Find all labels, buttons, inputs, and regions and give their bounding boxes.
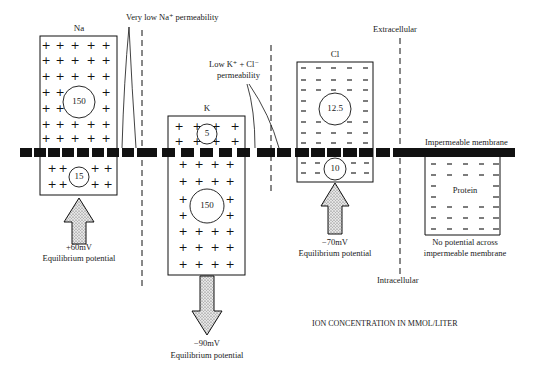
svg-text:+: + — [86, 54, 95, 67]
na-permeability-pointers — [122, 27, 136, 148]
svg-text:+: + — [86, 70, 95, 83]
na-compartment: +++++ +++++ +++++ +++ +++ +++++ +++++ ++… — [40, 36, 117, 244]
svg-text:+: + — [103, 178, 112, 191]
k-cl-permeability-label-line2: permeability — [217, 70, 260, 81]
svg-text:+: + — [41, 118, 50, 131]
svg-text:+: + — [86, 118, 95, 131]
svg-text:+: + — [101, 86, 110, 99]
svg-text:+: + — [178, 193, 187, 206]
na-potential-label: Equilibrium potential — [25, 253, 133, 264]
na-permeability-label: Very low Na⁺ permeability — [126, 12, 219, 23]
k-cl-permeability-label-line1: Low K⁺ + Cl⁻ — [209, 59, 259, 70]
svg-text:+: + — [70, 54, 79, 67]
svg-text:+: + — [70, 132, 79, 145]
svg-text:+: + — [210, 175, 219, 188]
svg-text:+: + — [86, 132, 95, 145]
svg-text:+: + — [225, 209, 234, 222]
svg-text:+: + — [178, 175, 187, 188]
svg-text:+: + — [58, 178, 67, 191]
impermeable-membrane — [393, 148, 515, 157]
na-ion-label: Na — [68, 23, 90, 34]
cl-extracellular-conc: 12.5 — [319, 103, 351, 114]
svg-text:+: + — [210, 225, 219, 238]
svg-text:+: + — [101, 132, 110, 145]
svg-text:+: + — [230, 120, 239, 133]
svg-text:+: + — [55, 70, 64, 83]
svg-text:+: + — [41, 132, 50, 145]
svg-text:+: + — [225, 258, 234, 271]
cl-intracellular-conc: 10 — [325, 163, 345, 174]
k-cl-permeability-pointers — [247, 84, 279, 148]
na-extracellular-conc: 150 — [63, 96, 95, 107]
cl-potential-label: Equilibrium potential — [281, 248, 389, 259]
svg-text:+: + — [210, 258, 219, 271]
k-potential-value: −90mV — [168, 338, 246, 349]
svg-text:+: + — [41, 39, 50, 52]
svg-text:+: + — [210, 241, 219, 254]
svg-text:+: + — [225, 193, 234, 206]
svg-text:+: + — [225, 225, 234, 238]
svg-text:+: + — [178, 258, 187, 271]
k-ion-label: K — [197, 103, 217, 114]
na-potential-value: +60mV — [40, 242, 118, 253]
svg-text:+: + — [58, 162, 67, 175]
extracellular-label: Extracellular — [373, 24, 417, 35]
svg-text:+: + — [178, 225, 187, 238]
svg-text:+: + — [178, 158, 187, 171]
svg-text:+: + — [101, 118, 110, 131]
svg-text:+: + — [55, 118, 64, 131]
cl-ion-label: Cl — [325, 49, 345, 60]
svg-text:+: + — [70, 118, 79, 131]
protein-note-line1: No potential across — [410, 237, 520, 248]
svg-text:+: + — [225, 241, 234, 254]
na-arrow-up-icon — [64, 198, 94, 244]
svg-text:+: + — [178, 209, 187, 222]
na-intracellular-conc: 15 — [69, 171, 89, 182]
svg-text:+: + — [101, 102, 110, 115]
svg-text:+: + — [90, 162, 99, 175]
svg-text:+: + — [70, 39, 79, 52]
svg-text:+: + — [41, 86, 50, 99]
svg-text:+: + — [41, 70, 50, 83]
svg-text:+: + — [41, 102, 50, 115]
svg-text:+: + — [178, 241, 187, 254]
svg-text:+: + — [174, 120, 183, 133]
svg-text:+: + — [210, 158, 219, 171]
svg-text:+: + — [174, 135, 183, 148]
svg-text:+: + — [47, 162, 56, 175]
svg-text:+: + — [101, 39, 110, 52]
units-note: ION CONCENTRATION IN MMOL/LITER — [312, 318, 458, 329]
protein-label: Protein — [440, 185, 490, 196]
k-intracellular-conc: 150 — [191, 200, 223, 211]
svg-text:+: + — [103, 162, 112, 175]
intracellular-label: Intracellular — [377, 275, 419, 286]
svg-text:+: + — [230, 135, 239, 148]
svg-text:+: + — [55, 39, 64, 52]
svg-text:+: + — [47, 178, 56, 191]
impermeable-membrane-label: Impermeable membrane — [425, 137, 508, 148]
k-arrow-down-icon — [192, 276, 222, 335]
svg-text:+: + — [55, 54, 64, 67]
svg-text:+: + — [194, 241, 203, 254]
svg-text:+: + — [194, 158, 203, 171]
svg-text:+: + — [225, 175, 234, 188]
protein-note-line2: impermeable membrane — [410, 248, 520, 259]
svg-text:+: + — [101, 54, 110, 67]
svg-text:+: + — [41, 54, 50, 67]
k-extracellular-conc: 5 — [199, 128, 215, 139]
svg-text:+: + — [70, 70, 79, 83]
k-potential-label: Equilibrium potential — [153, 350, 261, 361]
svg-text:+: + — [225, 158, 234, 171]
svg-text:+: + — [55, 132, 64, 145]
protein-minus-symbols — [431, 164, 499, 229]
cell-membrane-permeable — [20, 148, 390, 157]
svg-text:+: + — [90, 178, 99, 191]
protein-compartment — [425, 157, 500, 235]
cl-arrow-up-icon — [321, 183, 349, 234]
cl-potential-value: −70mV — [296, 237, 374, 248]
svg-text:+: + — [194, 258, 203, 271]
svg-text:+: + — [194, 175, 203, 188]
svg-text:+: + — [194, 225, 203, 238]
svg-text:+: + — [86, 39, 95, 52]
svg-text:+: + — [101, 70, 110, 83]
